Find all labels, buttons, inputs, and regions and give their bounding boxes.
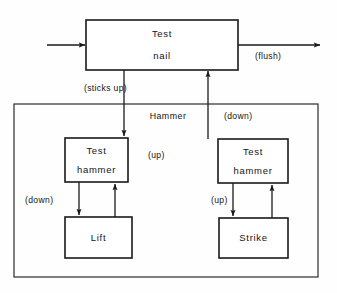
sticks-up-label: (sticks up) — [84, 83, 127, 93]
diagram-canvas: Hammer Test nail (flush) (sticks up) (do… — [0, 0, 337, 293]
flush-label: (flush) — [255, 51, 281, 61]
up-right-label: (up) — [211, 195, 228, 205]
hammer-container-label: Hammer — [150, 111, 187, 121]
test-nail-label-line1: Test — [152, 28, 172, 39]
test-hammer-right-label-line1: Test — [243, 146, 263, 157]
strike-label: Strike — [239, 232, 267, 243]
down-left-label: (down) — [25, 195, 53, 205]
diagram-svg: Hammer Test nail (flush) (sticks up) (do… — [0, 0, 337, 293]
test-nail-label-line2: nail — [153, 50, 171, 61]
lift-label: Lift — [91, 232, 106, 243]
down-right-label: (down) — [224, 111, 252, 121]
test-hammer-left-label-line2: hammer — [77, 164, 116, 175]
test-hammer-right-label-line2: hammer — [233, 165, 272, 176]
test-hammer-left-label-line1: Test — [86, 145, 106, 156]
up-middle-label: (up) — [148, 150, 165, 160]
